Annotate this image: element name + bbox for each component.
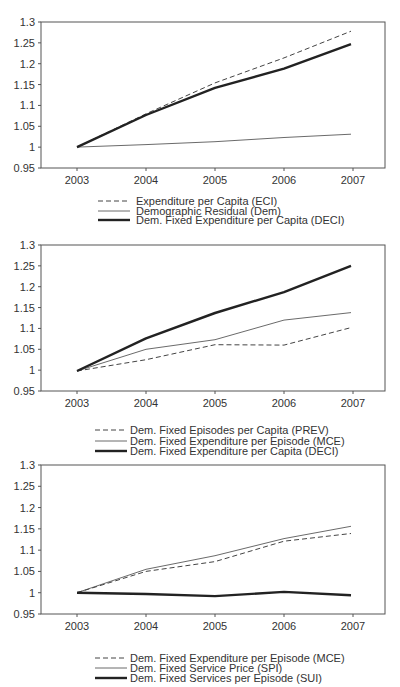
y-tick-label: 1.1 [20,322,35,334]
plot-frame [41,245,385,391]
legend: Dem. Fixed Episodes per Capita (PREV)Dem… [95,424,345,457]
legend-label: Dem. Fixed Expenditure per Capita (DECI) [130,445,338,457]
x-tick-label: 2006 [272,620,296,632]
chart-2: 1.31.251.21.151.11.0510.9520032004200520… [14,239,385,457]
series-line [77,313,351,371]
x-axis: 20032004200520062007 [65,391,365,409]
x-tick-label: 2003 [65,620,89,632]
y-tick-label: 0.95 [14,162,35,174]
charts-canvas: 1.31.251.21.151.11.0510.9520032004200520… [0,0,400,687]
y-tick-label: 1.3 [20,16,35,28]
x-tick-label: 2005 [203,174,227,186]
x-tick-label: 2005 [203,397,227,409]
y-axis: 1.31.251.21.151.11.0510.95 [14,239,41,397]
y-tick-label: 0.95 [14,608,35,620]
plot-frame [41,22,385,168]
x-tick-label: 2007 [341,174,365,186]
y-tick-label: 1.1 [20,544,35,556]
legend: Dem. Fixed Expenditure per Episode (MCE)… [95,652,345,684]
x-tick-label: 2005 [203,620,227,632]
y-tick-label: 1.25 [14,37,35,49]
series-line [77,134,351,147]
x-tick-label: 2003 [65,397,89,409]
y-tick-label: 0.95 [14,385,35,397]
series-line [77,44,351,147]
y-tick-label: 1.2 [20,502,35,514]
series-line [77,328,351,371]
chart-1: 1.31.251.21.151.11.0510.9520032004200520… [14,16,385,226]
plot-frame [41,465,385,614]
y-tick-label: 1.05 [14,565,35,577]
x-tick-label: 2006 [272,174,296,186]
y-tick-label: 1 [29,587,35,599]
y-tick-label: 1.1 [20,99,35,111]
y-tick-label: 1.3 [20,459,35,471]
x-axis: 20032004200520062007 [65,168,365,186]
series-line [77,534,351,593]
y-tick-label: 1.15 [14,79,35,91]
x-tick-label: 2007 [341,397,365,409]
y-tick-label: 1.05 [14,120,35,132]
y-tick-label: 1.25 [14,480,35,492]
x-tick-label: 2007 [341,620,365,632]
legend-label: Dem. Fixed Services per Episode (SUI) [130,672,322,684]
y-tick-label: 1.15 [14,302,35,314]
y-tick-label: 1.3 [20,239,35,251]
x-tick-label: 2004 [134,397,158,409]
y-tick-label: 1.05 [14,343,35,355]
y-tick-label: 1.15 [14,523,35,535]
y-tick-label: 1.2 [20,58,35,70]
y-tick-label: 1.2 [20,281,35,293]
x-tick-label: 2004 [134,620,158,632]
y-tick-label: 1.25 [14,260,35,272]
y-axis: 1.31.251.21.151.11.0510.95 [14,459,41,620]
y-axis: 1.31.251.21.151.11.0510.95 [14,16,41,174]
series-line [77,592,351,596]
series-line [77,266,351,371]
legend: Expenditure per Capita (ECI)Demographic … [98,195,344,226]
y-tick-label: 1 [29,141,35,153]
x-tick-label: 2004 [134,174,158,186]
chart-3: 1.31.251.21.151.11.0510.9520032004200520… [14,459,385,684]
x-tick-label: 2003 [65,174,89,186]
x-axis: 20032004200520062007 [65,614,365,632]
series-line [77,526,351,592]
y-tick-label: 1 [29,364,35,376]
legend-label: Dem. Fixed Expenditure per Capita (DECI) [136,214,344,226]
x-tick-label: 2006 [272,397,296,409]
